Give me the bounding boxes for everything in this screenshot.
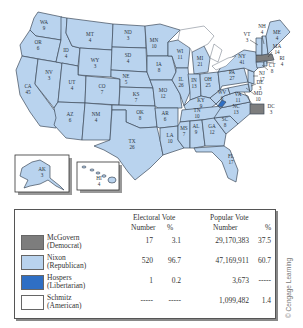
candidate-label: McGovern(Democrat) [47,234,82,250]
svg-text:IL26: IL26 [178,76,184,88]
ev-percent: 96.7 [159,256,181,265]
svg-text:MD10: MD10 [254,90,263,102]
schmitz-swatch [21,295,44,310]
pop-number: 47,169,911 [193,256,249,265]
pop-number-header: Number [213,223,238,232]
pop-percent-header: % [265,223,271,232]
hospers-swatch [21,275,44,290]
state-nj[interactable] [248,70,254,84]
pop-percent: 37.5 [253,236,271,245]
pop-number: 1,099,482 [193,296,249,305]
legend-row-mcgovern: McGovern(Democrat) 17 3.1 29,170,383 37.… [21,234,271,254]
candidate-label: Hospers(Libertarian) [47,274,85,290]
svg-text:MI21: MI21 [197,55,204,67]
legend-row-schmitz: Schmitz(American) ----- ----- 1,099,482 … [21,294,271,314]
legend-row-nixon: Nixon(Republican) 520 96.7 47,169,911 60… [21,254,271,274]
svg-text:FL17: FL17 [228,153,234,165]
svg-text:NH4: NH4 [258,23,266,35]
svg-text:IN13: IN13 [191,77,197,89]
electoral-vote-header: Electoral Vote [133,213,175,222]
ev-percent-header: % [167,223,173,232]
pop-percent: ----- [253,276,271,285]
ev-percent: ----- [159,296,181,305]
state-ia[interactable] [147,56,176,80]
results-legend-table: Electoral Vote Popular Vote Number % Num… [14,209,276,319]
ev-number: 520 [131,256,153,265]
ev-percent: 3.1 [159,236,181,245]
ev-number: 1 [131,276,153,285]
pop-number: 3,673 [193,276,249,285]
svg-text:RI4: RI4 [279,55,284,67]
pop-number: 29,170,383 [193,236,249,245]
state-ri[interactable] [264,61,267,66]
state-ct[interactable] [256,62,264,68]
us-electoral-map: WA9 OR6 CA45 NV3 ID4 MT4 WY3 UT4 AZ6 CO7… [0,0,303,205]
svg-text:CT8: CT8 [269,62,276,74]
state-dc[interactable] [250,104,264,114]
ev-number-header: Number [131,223,156,232]
svg-text:PA27: PA27 [229,69,235,81]
candidate-label: Nixon(Republican) [47,254,86,270]
svg-text:VT3: VT3 [244,31,252,43]
svg-text:MA14: MA14 [273,43,282,55]
state-vt[interactable] [256,38,262,55]
ev-percent: 0.2 [159,276,181,285]
legend-row-hospers: Hospers(Libertarian) 1 0.2 3,673 ----- [21,274,271,294]
popular-vote-header: Popular Vote [210,213,249,222]
ev-number: 17 [131,236,153,245]
candidate-label: Schmitz(American) [47,294,82,310]
mcgovern-swatch [21,235,44,250]
pop-percent: 60.7 [253,256,271,265]
svg-text:DC3: DC3 [267,103,275,115]
copyright-credit: © Cengage Learning [285,258,292,318]
pop-percent: 1.4 [253,296,271,305]
nixon-swatch [21,255,44,270]
ev-number: ----- [131,296,153,305]
